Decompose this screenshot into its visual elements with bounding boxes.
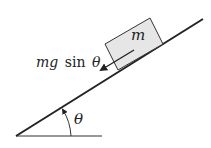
incline-diagram: m mg sin θ θ <box>0 0 211 148</box>
incline-line <box>16 19 203 136</box>
force-label: mg sin θ <box>36 54 101 70</box>
angle-arc <box>63 110 71 136</box>
angle-label: θ <box>74 110 83 128</box>
mass-label: m <box>131 26 145 44</box>
